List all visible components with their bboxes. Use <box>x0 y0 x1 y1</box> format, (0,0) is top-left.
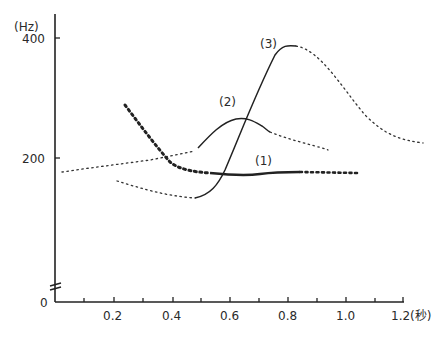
x-tick-0-2: 0.2 <box>103 309 122 323</box>
x-tick-1-0: 1.0 <box>336 309 355 323</box>
annotation-1: (1) <box>255 154 272 168</box>
series-1-heavy-dotted <box>125 105 210 173</box>
series-3-dotted-start <box>117 181 195 198</box>
y-tick-400: 400 <box>22 32 45 46</box>
y-axis <box>50 14 61 302</box>
annotation-3: (3) <box>260 37 277 51</box>
series-1-dotted-tail <box>300 172 358 173</box>
x-axis <box>55 297 404 302</box>
y-tick-200: 200 <box>22 152 45 166</box>
series-3-dotted-end <box>296 46 423 143</box>
annotation-2: (2) <box>219 95 236 109</box>
series-2-dotted-tail <box>270 132 328 150</box>
y-tick-0: 0 <box>40 296 48 310</box>
series-background-dotted <box>62 151 195 172</box>
series-2-solid <box>198 119 270 148</box>
pitch-contour-chart: (Hz) 400 200 0 0.2 0.4 0.6 0.8 1.0 1.2(秒… <box>0 0 446 337</box>
x-tick-1-2-unit: 1.2(秒) <box>391 309 431 323</box>
x-tick-0-4: 0.4 <box>162 309 181 323</box>
x-tick-0-6: 0.6 <box>220 309 239 323</box>
x-tick-0-8: 0.8 <box>278 309 297 323</box>
